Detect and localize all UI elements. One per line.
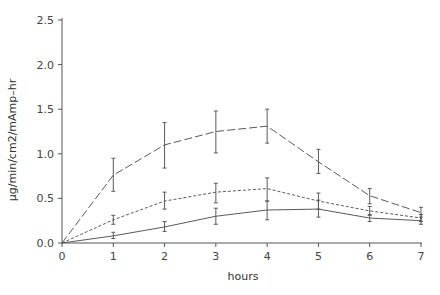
x-tick-label: 4 bbox=[264, 250, 271, 263]
y-tick-label: 1.0 bbox=[37, 148, 55, 161]
y-tick-label: 0.5 bbox=[37, 192, 55, 205]
series-line bbox=[62, 126, 421, 243]
x-ticks: 01234567 bbox=[59, 243, 425, 263]
plot-area bbox=[62, 109, 423, 243]
x-tick-label: 6 bbox=[366, 250, 373, 263]
y-tick-label: 1.5 bbox=[37, 103, 55, 116]
x-tick-label: 7 bbox=[418, 250, 425, 263]
x-tick-label: 5 bbox=[315, 250, 322, 263]
y-tick-label: 0.0 bbox=[37, 237, 55, 250]
series-short-dash bbox=[62, 178, 423, 243]
series-long-dash bbox=[62, 109, 423, 243]
series-line bbox=[62, 209, 421, 243]
x-tick-label: 3 bbox=[212, 250, 219, 263]
x-tick-label: 2 bbox=[161, 250, 168, 263]
y-axis-title: μg/min/cm2/mAmp–hr bbox=[6, 78, 19, 201]
x-tick-label: 0 bbox=[59, 250, 66, 263]
x-tick-label: 1 bbox=[110, 250, 117, 263]
y-ticks: 0.00.51.01.52.02.5 bbox=[37, 14, 63, 250]
y-tick-label: 2.0 bbox=[37, 59, 55, 72]
x-axis-title: hours bbox=[228, 270, 259, 283]
chart: 0.00.51.01.52.02.5 01234567 hours μg/min… bbox=[0, 0, 440, 295]
series-line bbox=[62, 189, 421, 243]
y-tick-label: 2.5 bbox=[37, 14, 55, 27]
